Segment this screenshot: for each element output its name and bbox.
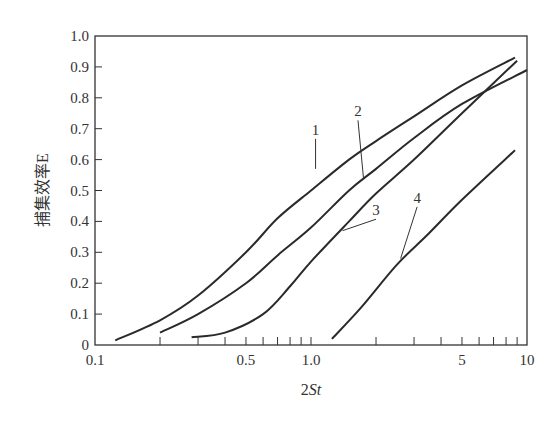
y-tick-label: 0.5 — [70, 183, 89, 199]
y-axis-ticks: 00.10.20.30.40.50.60.70.80.91.0 — [70, 28, 102, 353]
leader-line-4 — [401, 207, 417, 259]
x-tick-label: 5 — [458, 352, 466, 368]
y-tick-label: 0.4 — [70, 213, 89, 229]
leader-line-3 — [343, 219, 376, 230]
curve-labels: 1234 — [312, 103, 422, 258]
curve-3 — [192, 61, 518, 338]
curve-4 — [332, 150, 515, 338]
x-tick-label: 10 — [520, 352, 535, 368]
y-tick-label: 0.7 — [70, 121, 89, 137]
x-tick-label: 1.0 — [302, 352, 321, 368]
y-axis-label: 捕集效率E — [34, 153, 51, 227]
y-tick-label: 0.8 — [70, 90, 89, 106]
y-tick-label: 0.2 — [70, 275, 89, 291]
x-axis-ticks: 0.10.51.0510 — [86, 337, 535, 368]
y-tick-label: 0.6 — [70, 152, 89, 168]
x-tick-label: 0.5 — [237, 352, 256, 368]
curve-label-2: 2 — [354, 103, 362, 119]
y-tick-label: 0.9 — [70, 59, 89, 75]
curve-2 — [160, 70, 527, 333]
x-axis-label: 2St — [301, 381, 322, 398]
y-tick-label: 0.1 — [70, 306, 89, 322]
x-tick-label: 0.1 — [86, 352, 105, 368]
curve-label-1: 1 — [312, 122, 320, 138]
y-tick-label: 0.3 — [70, 244, 89, 260]
curves — [115, 58, 527, 341]
curve-label-3: 3 — [372, 202, 380, 218]
y-tick-label: 0 — [82, 337, 90, 353]
curve-1 — [115, 58, 515, 341]
capture-efficiency-chart: 0.10.51.0510 00.10.20.30.40.50.60.70.80.… — [0, 0, 560, 426]
y-tick-label: 1.0 — [70, 28, 89, 44]
curve-label-4: 4 — [413, 190, 421, 206]
